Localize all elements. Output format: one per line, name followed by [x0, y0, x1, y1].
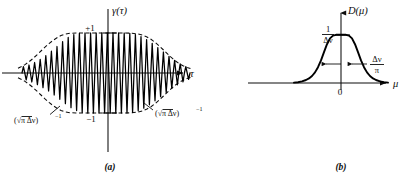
panel-a-x-axis-label: τ	[190, 68, 195, 79]
panel-b-y-axis-label: D(μ)	[347, 5, 368, 17]
panel-b-width-label-numerator: Δν	[372, 54, 381, 64]
figure-container: γ(τ) τ +1 −1 (√π Δν) −1	[0, 0, 409, 178]
panel-a-tick-label-minus-one: −1	[86, 114, 96, 124]
panel-b-width-label-denominator: π	[375, 65, 380, 75]
panel-a-envelope-label-left-base: (√π Δν)	[14, 116, 38, 125]
panel-a-coherence-curve	[22, 33, 190, 113]
panel-a-envelope-label-left-exponent: −1	[55, 113, 61, 119]
panel-b: D(μ) μ 1 Δν Δν π 0	[248, 5, 398, 173]
panel-b-origin-label: 0	[338, 87, 343, 97]
panel-a-envelope-upper	[18, 33, 191, 69]
panel-b-width-label: Δν π	[370, 54, 384, 75]
panel-b-x-axis-label: μ	[392, 78, 398, 89]
panel-b-caption: (b)	[335, 162, 346, 173]
scientific-figure: γ(τ) τ +1 −1 (√π Δν) −1	[0, 0, 409, 178]
panel-a-envelope-label-left: (√π Δν) −1	[14, 106, 61, 125]
panel-a-envelope-label-right-exponent: −1	[196, 106, 202, 112]
panel-b-peak-label-denominator: Δν	[323, 35, 332, 45]
panel-b-peak-label-numerator: 1	[326, 24, 330, 34]
panel-b-peak-label: 1 Δν	[322, 24, 334, 45]
panel-a-caption: (a)	[104, 162, 115, 173]
panel-a-envelope-label-right-base: (√π Δν)	[155, 109, 179, 118]
panel-a-tick-label-plus-one: +1	[85, 23, 95, 33]
panel-a-y-axis-label: γ(τ)	[112, 5, 127, 17]
panel-a: γ(τ) τ +1 −1 (√π Δν) −1	[2, 5, 202, 173]
